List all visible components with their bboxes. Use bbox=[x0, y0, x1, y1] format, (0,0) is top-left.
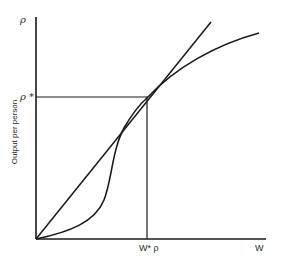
y-axis-title: Output per person bbox=[10, 100, 19, 164]
x-axis-end-label: W bbox=[255, 243, 264, 253]
diagram-canvas: ρ ρ * Output per person W* ρ W bbox=[0, 0, 282, 265]
y-axis-top-label: ρ bbox=[20, 15, 26, 25]
diagram-plot bbox=[0, 0, 282, 265]
w-star-label: W* ρ bbox=[139, 243, 159, 253]
rho-star-label: ρ * bbox=[20, 92, 34, 102]
